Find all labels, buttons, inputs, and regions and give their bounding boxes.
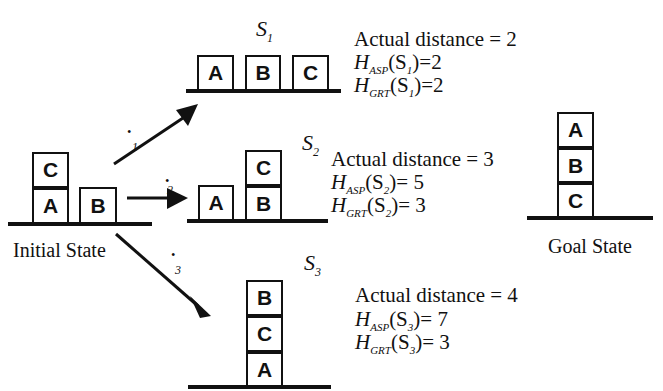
block-c: C [245,150,282,186]
block-a: A [197,55,234,91]
block-a: A [246,352,283,387]
ground-line [527,216,653,220]
arrow-to-s3 [116,234,211,318]
initial-state-label: Initial State [13,239,106,262]
block-a: A [198,185,234,221]
block-b: B [79,187,117,224]
block-c: C [557,183,594,218]
block-a: A [557,112,594,148]
s2-label: S2 [302,130,319,156]
block-c: C [246,316,283,352]
s3-actual-distance: Actual distance = 4 [355,285,518,306]
block-c: C [292,55,329,91]
ground-line [186,89,341,93]
operator-1-label: •1 [127,125,138,155]
s1-actual-distance: Actual distance = 2 [354,29,517,50]
s3-label: S3 [304,250,321,276]
block-b: B [245,55,281,91]
block-b: B [557,148,594,183]
s2-actual-distance: Actual distance = 3 [331,149,494,170]
block-b: B [246,280,283,316]
s1-h-grt: HGRT(S1)=2 [354,75,443,96]
s3-h-grt: HGRT(S3)= 3 [355,332,450,353]
goal-state-label: Goal State [548,235,632,258]
operator-2-label: •2 [165,174,173,204]
s1-label: S1 [256,16,273,42]
ground-line [8,222,152,226]
block-a: A [32,188,69,224]
block-c: C [32,152,69,188]
ground-line [188,385,331,389]
arrow-to-s2 [127,188,188,209]
block-b: B [245,186,282,221]
s1-h-asp: HASP(S1)=2 [354,52,442,73]
operator-3-label: •3 [171,248,181,278]
s3-h-asp: HASP(S3)= 7 [355,309,448,330]
s2-h-grt: HGRT(S2)= 3 [331,195,426,216]
ground-line [187,219,328,223]
s2-h-asp: HASP(S2)= 5 [331,172,424,193]
